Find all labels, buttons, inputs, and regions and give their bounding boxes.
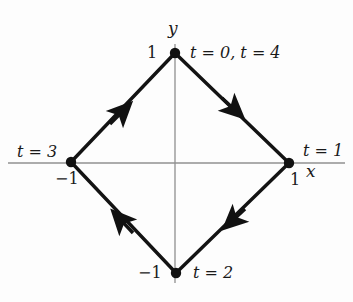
edge-left-to-top (71, 53, 175, 162)
arrow-top-to-right-icon (222, 98, 236, 111)
axis-lines (8, 44, 345, 283)
edge-bottom-to-left (71, 162, 176, 273)
parameter-label-bottom: t = 2 (193, 265, 233, 281)
y-axis-label: y (168, 20, 178, 37)
parameter-label-right: t = 1 (303, 143, 343, 159)
vertex-dot-right (284, 158, 294, 168)
vertex-dot-top (170, 48, 180, 58)
direction-arrows (110, 98, 245, 233)
vertex-dot-bottom (171, 268, 181, 278)
edge-right-to-bottom (176, 163, 289, 273)
tick-label-top: 1 (147, 45, 157, 61)
vertex-dot-left (66, 157, 76, 167)
parameter-label-left: t = 3 (17, 144, 57, 160)
tick-label-left: −1 (55, 171, 79, 187)
tick-label-right: 1 (290, 172, 300, 188)
x-axis-label: x (306, 163, 316, 180)
tick-label-bottom: −1 (138, 265, 162, 281)
parameter-label-top: t = 0, t = 4 (190, 45, 281, 61)
parametric-curve-figure: y x 1 −1 1 −1 t = 0, t = 4 t = 1 t = 2 t… (0, 0, 353, 302)
